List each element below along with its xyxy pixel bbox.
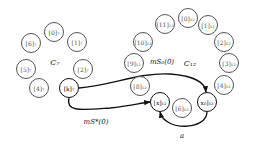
- node-c7_k: [k]₇: [59, 78, 79, 98]
- node-c12_x: [x]₁₂: [150, 92, 170, 112]
- node-c12_0: [0]₁₂: [178, 8, 198, 28]
- node-c12_2: [2]₁₂: [214, 32, 234, 52]
- node-c12_3: [3]₁₂: [219, 53, 239, 73]
- cluster-label-c7: C₇: [50, 58, 59, 67]
- node-c12_8: [8]₁₂: [130, 76, 150, 96]
- node-c12_1: [1]₁₂: [198, 15, 218, 35]
- node-c12_11: [11]₁₂: [155, 14, 175, 34]
- node-c7_2: [2]₇: [73, 59, 93, 79]
- node-c7_1: [1]₇: [67, 32, 87, 52]
- edge-label-m-s0: mS₀(0): [150, 58, 174, 66]
- node-c12_9: [9]₁₂: [124, 53, 144, 73]
- node-c7_4: [4]₇: [29, 78, 49, 98]
- edge-label-m-sstar: mS*(0): [84, 118, 109, 126]
- cluster-label-c12: C₁₂: [184, 59, 197, 68]
- node-c12_x0: x₀]₁₂: [197, 92, 217, 112]
- node-c7_5: [5]₇: [16, 59, 36, 79]
- node-c12_10: [10]₁₂: [133, 32, 153, 52]
- node-c7_6: [6]₇: [21, 33, 41, 53]
- edge-k7-to-x: [69, 98, 150, 109]
- edge-label-a: a: [180, 132, 184, 140]
- node-c12_6: [6]₁₂: [172, 98, 192, 118]
- node-c12_4: [4]₁₂: [214, 75, 234, 95]
- node-c7_0: [0]₇: [44, 22, 64, 42]
